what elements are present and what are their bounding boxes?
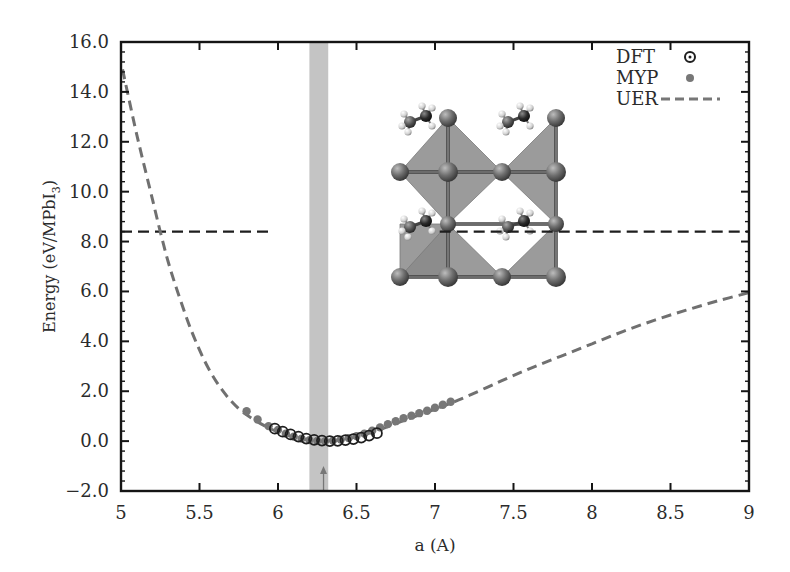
energy-vs-lattice-chart: 55.566.577.588.59 −2.00.02.04.06.08.010.… [0,0,790,572]
x-tick-label: 5.5 [185,502,214,523]
y-tick-label: 10.0 [69,181,109,202]
myp-data-point [253,415,261,423]
myp-data-point [447,397,455,405]
iodide-atom [440,216,456,232]
y-tick-label: 12.0 [69,131,109,152]
iodide-atom [438,267,458,287]
iodide-atom [439,109,457,127]
hydrogen-atom [498,110,505,117]
x-tick-label: 6.5 [342,502,371,523]
hydrogen-atom [526,104,533,111]
hydrogen-atom [404,128,411,135]
y-tick-label: 14.0 [69,81,109,102]
crystal-structure-inset [391,102,566,287]
hydrogen-atom [400,110,407,117]
y-tick-label: 6.0 [80,280,109,301]
x-tick-label: 9 [743,502,754,523]
myp-data-point [399,414,407,422]
highlight-band [309,42,328,491]
y-tick-label: 4.0 [80,330,109,351]
hydrogen-atom [428,122,435,129]
legend-myp-marker-icon [686,74,694,82]
x-tick-label: 7.5 [499,502,528,523]
carbon-atom [420,215,432,227]
hydrogen-atom [400,215,407,222]
hydrogen-atom [428,209,435,216]
hydrogen-atom [526,209,533,216]
legend-label: DFT [616,46,655,67]
iodide-atom [546,267,566,287]
hydrogen-atom [502,233,509,240]
nitrogen-atom [404,221,416,233]
nitrogen-atom [404,116,416,128]
carbon-atom [518,215,530,227]
y-axis-title: Energy (eV/MPbI3) [40,180,63,333]
hydrogen-atom [498,215,505,222]
vertical-band [309,42,328,491]
methylammonium-molecule [496,102,533,135]
iodide-atom [493,268,511,286]
carbon-atom [420,110,432,122]
iodide-atom [548,216,564,232]
x-axis-title: a (A) [414,535,455,555]
iodide-atom [438,162,458,182]
myp-data-point [392,417,400,425]
hydrogen-atom [516,102,523,109]
iodide-atom [547,109,565,127]
hydrogen-atom [428,227,435,234]
myp-data-point [431,403,439,411]
iodide-atom [391,163,409,181]
legend-label: MYP [616,67,658,88]
x-tick-label: 6 [272,502,283,523]
hydrogen-atom [418,207,425,214]
carbon-atom [518,110,530,122]
methylammonium-molecule [398,102,435,135]
hydrogen-atom [516,207,523,214]
y-tick-label: −2.0 [65,480,109,501]
myp-data-point [242,407,250,415]
y-tick-label: 8.0 [80,231,109,252]
iodide-atom [546,162,566,182]
hydrogen-atom [502,128,509,135]
chart-canvas: 55.566.577.588.59 −2.00.02.04.06.08.010.… [0,0,790,572]
iodide-atom [493,163,511,181]
x-tick-label: 8 [586,502,597,523]
hydrogen-atom [398,122,405,129]
x-tick-label: 5 [115,502,126,523]
myp-data-point [407,411,415,419]
y-tick-label: 2.0 [80,380,109,401]
myp-data-point [415,409,423,417]
x-tick-label: 8.5 [656,502,685,523]
hydrogen-atom [404,233,411,240]
myp-data-point [384,420,392,428]
y-tick-label: 16.0 [69,31,109,52]
myp-data-point [439,400,447,408]
nitrogen-atom [502,116,514,128]
legend-label: UER [616,88,658,109]
x-tick-label: 7 [429,502,440,523]
hydrogen-atom [398,227,405,234]
hydrogen-atom [428,104,435,111]
legend: DFTMYPUER [616,46,720,109]
iodide-atom [391,268,409,286]
hydrogen-atom [526,122,533,129]
y-tick-label: 0.0 [80,430,109,451]
hydrogen-atom [418,102,425,109]
hydrogen-atom [496,122,503,129]
myp-data-point [423,406,431,414]
x-axis-ticks: 55.566.577.588.59 [115,42,754,523]
